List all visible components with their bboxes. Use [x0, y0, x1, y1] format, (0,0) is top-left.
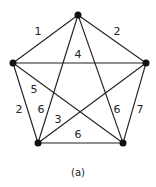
edge-weight-label: 1: [35, 25, 42, 38]
edge-weight-label: 6: [75, 128, 82, 141]
vertex-bottom_right: [120, 140, 127, 147]
edge-weight-label: 6: [38, 103, 45, 116]
vertex-right: [143, 60, 150, 67]
vertex-bottom_left: [35, 140, 42, 147]
edge-weight-label: 2: [16, 103, 23, 116]
vertex-left: [10, 60, 17, 67]
edge-top-left: [13, 15, 78, 63]
edge-right-bottom_left: [38, 63, 146, 143]
edge-labels: 1245266376: [16, 25, 144, 141]
edge-left-bottom_right: [13, 63, 123, 143]
vertices: [10, 12, 150, 147]
edge-weight-label: 5: [31, 83, 38, 96]
edge-weight-label: 7: [137, 103, 144, 116]
edge-weight-label: 2: [114, 25, 121, 38]
edge-weight-label: 6: [114, 103, 121, 116]
figure-caption: (a): [71, 167, 85, 178]
graph-diagram: 1245266376 (a): [0, 0, 156, 187]
edge-weight-label: 4: [75, 48, 82, 61]
edge-top-right: [78, 15, 146, 63]
vertex-top: [75, 12, 82, 19]
edge-weight-label: 3: [55, 113, 62, 126]
edges: [13, 15, 146, 143]
